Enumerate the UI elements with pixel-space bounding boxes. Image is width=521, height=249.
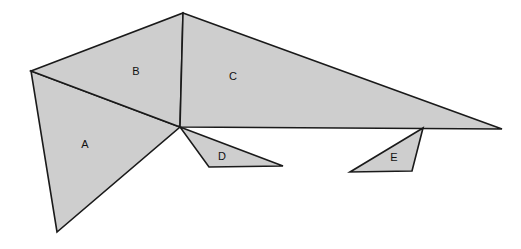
face-label-a: A	[81, 138, 89, 150]
face-label-c: C	[229, 70, 237, 82]
face-label-b: B	[132, 65, 139, 77]
figure-canvas: ABCDE	[0, 0, 521, 249]
face-label-d: D	[218, 150, 226, 162]
polygon-figure: ABCDE	[0, 0, 521, 249]
face-label-e: E	[390, 151, 397, 163]
